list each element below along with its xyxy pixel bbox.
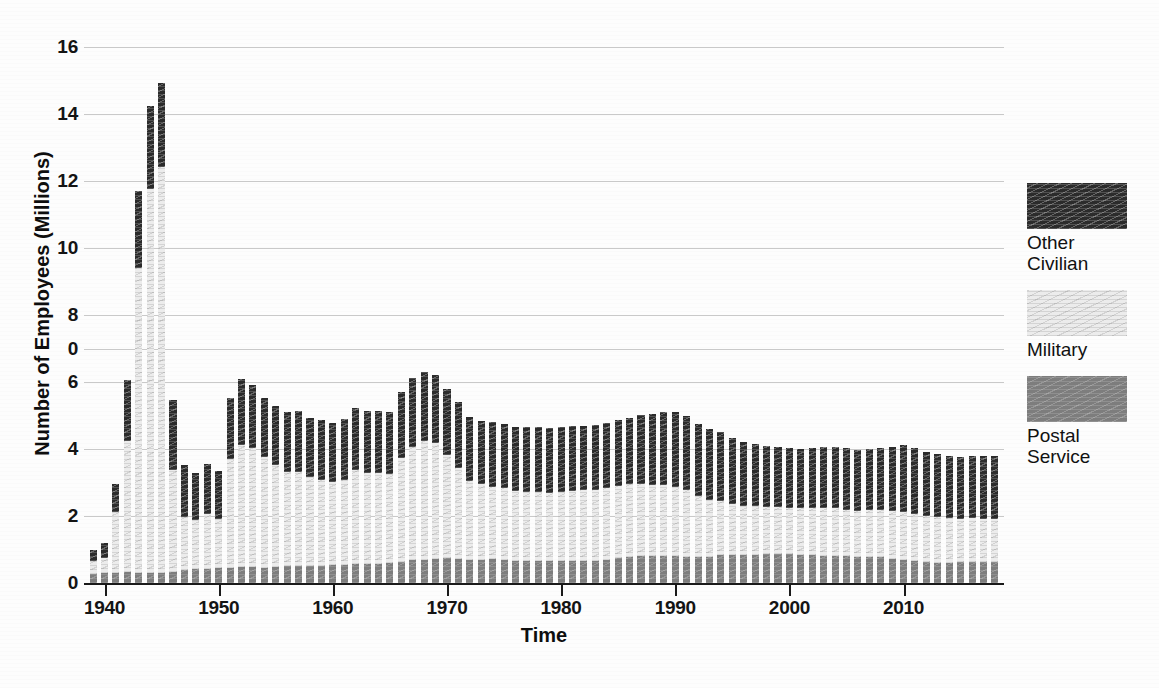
bar-column[interactable] <box>523 47 530 583</box>
bar-column[interactable] <box>786 47 793 583</box>
bar-column[interactable] <box>249 47 256 583</box>
bar-column[interactable] <box>969 47 976 583</box>
bar-column[interactable] <box>455 47 462 583</box>
bar-column[interactable] <box>843 47 850 583</box>
bar-column[interactable] <box>900 47 907 583</box>
bar-column[interactable] <box>352 47 359 583</box>
bar-column[interactable] <box>832 47 839 583</box>
bar-column[interactable] <box>911 47 918 583</box>
bar-column[interactable] <box>683 47 690 583</box>
bar-column[interactable] <box>272 47 279 583</box>
legend-entry[interactable]: Other Civilian <box>1027 183 1147 274</box>
bar-column[interactable] <box>717 47 724 583</box>
bar-column[interactable] <box>364 47 371 583</box>
bar-column[interactable] <box>889 47 896 583</box>
bar-column[interactable] <box>375 47 382 583</box>
bar-column[interactable] <box>820 47 827 583</box>
bar-column[interactable] <box>877 47 884 583</box>
bar-segment-postal <box>672 556 679 583</box>
bar-column[interactable] <box>740 47 747 583</box>
bar-column[interactable] <box>158 47 165 583</box>
bar-column[interactable] <box>284 47 291 583</box>
bar-column[interactable] <box>466 47 473 583</box>
bar-column[interactable] <box>695 47 702 583</box>
bar-column[interactable] <box>421 47 428 583</box>
bar-column[interactable] <box>261 47 268 583</box>
bar-segment-postal <box>957 562 964 583</box>
bar-column[interactable] <box>637 47 644 583</box>
bar-column[interactable] <box>306 47 313 583</box>
bar-column[interactable] <box>957 47 964 583</box>
bar-column[interactable] <box>946 47 953 583</box>
bar-column[interactable] <box>569 47 576 583</box>
bar-column[interactable] <box>809 47 816 583</box>
bar-column[interactable] <box>90 47 97 583</box>
bar-column[interactable] <box>763 47 770 583</box>
bar-column[interactable] <box>626 47 633 583</box>
bar-segment-postal <box>980 562 987 583</box>
bar-column[interactable] <box>215 47 222 583</box>
bar-column[interactable] <box>124 47 131 583</box>
bar-column[interactable] <box>649 47 656 583</box>
bar-column[interactable] <box>204 47 211 583</box>
bar-column[interactable] <box>546 47 553 583</box>
legend-entry[interactable]: Military <box>1027 290 1147 360</box>
bar-segment-military <box>181 517 188 570</box>
bar-column[interactable] <box>660 47 667 583</box>
bar-column[interactable] <box>192 47 199 583</box>
bar-column[interactable] <box>432 47 439 583</box>
bar-column[interactable] <box>295 47 302 583</box>
bar-column[interactable] <box>991 47 998 583</box>
bar-column[interactable] <box>752 47 759 583</box>
bar-column[interactable] <box>706 47 713 583</box>
bar-column[interactable] <box>797 47 804 583</box>
bar-column[interactable] <box>101 47 108 583</box>
bar-column[interactable] <box>558 47 565 583</box>
bar-column[interactable] <box>112 47 119 583</box>
bar-column[interactable] <box>501 47 508 583</box>
bar-column[interactable] <box>181 47 188 583</box>
bar-segment-military <box>501 488 508 559</box>
bar-column[interactable] <box>238 47 245 583</box>
bar-segment-military <box>729 504 736 555</box>
bar-column[interactable] <box>854 47 861 583</box>
bar-segment-other-civilian <box>729 438 736 503</box>
bar-column[interactable] <box>923 47 930 583</box>
bar-column[interactable] <box>341 47 348 583</box>
bar-column[interactable] <box>512 47 519 583</box>
x-tick-label: 1960 <box>288 597 378 619</box>
bar-column[interactable] <box>934 47 941 583</box>
bar-column[interactable] <box>135 47 142 583</box>
legend-entry[interactable]: Postal Service <box>1027 376 1147 467</box>
bar-column[interactable] <box>592 47 599 583</box>
bar-segment-military <box>112 512 119 572</box>
bar-column[interactable] <box>386 47 393 583</box>
bar-segment-military <box>169 470 176 572</box>
bar-column[interactable] <box>580 47 587 583</box>
bar-segment-military <box>341 480 348 564</box>
bar-column[interactable] <box>318 47 325 583</box>
bar-column[interactable] <box>535 47 542 583</box>
bar-column[interactable] <box>443 47 450 583</box>
bar-column[interactable] <box>147 47 154 583</box>
x-tick-label: 1970 <box>402 597 492 619</box>
bar-column[interactable] <box>398 47 405 583</box>
bar-column[interactable] <box>980 47 987 583</box>
bar-segment-postal <box>158 573 165 583</box>
bar-column[interactable] <box>615 47 622 583</box>
bar-segment-other-civilian <box>181 465 188 517</box>
bar-column[interactable] <box>478 47 485 583</box>
bar-segment-other-civilian <box>717 432 724 501</box>
bar-column[interactable] <box>866 47 873 583</box>
bar-column[interactable] <box>774 47 781 583</box>
bar-column[interactable] <box>672 47 679 583</box>
bar-column[interactable] <box>329 47 336 583</box>
bar-column[interactable] <box>169 47 176 583</box>
bar-column[interactable] <box>227 47 234 583</box>
bar-column[interactable] <box>489 47 496 583</box>
bar-segment-postal <box>466 560 473 583</box>
bar-column[interactable] <box>409 47 416 583</box>
bar-column[interactable] <box>729 47 736 583</box>
bar-column[interactable] <box>603 47 610 583</box>
bar-segment-other-civilian <box>740 442 747 505</box>
